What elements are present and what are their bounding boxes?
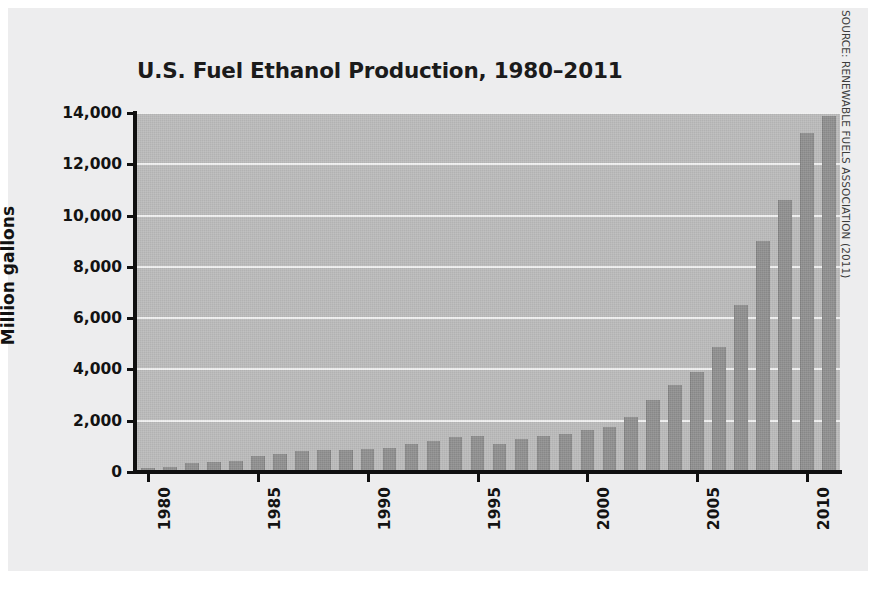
bar [800,133,814,472]
x-axis-label: 2010 [815,487,833,530]
x-axis-label: 1995 [486,487,504,530]
y-axis-label: 10,000 [62,207,122,225]
bar [339,450,353,472]
x-axis-label: 2000 [595,487,613,530]
bar [515,439,529,472]
y-axis-tick [127,112,134,115]
x-axis-label: 1990 [376,487,394,530]
y-axis-label: 12,000 [62,155,122,173]
y-axis-tick [127,471,134,474]
gridline [137,163,840,165]
x-axis-tick [147,474,150,482]
y-axis-label-wrap: 14,000 [0,104,122,122]
bar [624,417,638,472]
bar [449,437,463,472]
x-axis-tick [586,474,589,482]
gridline [137,215,840,217]
y-axis-label: 0 [111,463,122,481]
bar [295,451,309,472]
y-axis-tick [127,163,134,166]
bar [493,444,507,472]
bar [537,436,551,472]
y-axis-label-wrap: 4,000 [0,360,122,378]
bar [668,385,682,472]
x-axis-tick [806,474,809,482]
bar [383,448,397,472]
gridline [137,266,840,268]
bar [778,200,792,472]
bar [581,430,595,472]
y-axis-tick [127,266,134,269]
y-axis-label: 2,000 [73,412,122,430]
plot-area [137,113,840,472]
bar [405,444,419,472]
bar [317,450,331,472]
x-axis-tick [477,474,480,482]
y-axis-tick [127,420,134,423]
y-axis-tick [127,368,134,371]
bar [712,347,726,472]
y-axis-label-wrap: 0 [0,463,122,481]
x-axis-label: 1985 [266,487,284,530]
x-axis-tick [367,474,370,482]
y-axis-title: Million gallons [0,206,18,345]
y-axis-label: 4,000 [73,360,122,378]
y-axis-label-wrap: 8,000 [0,258,122,276]
x-axis-label: 1980 [156,487,174,530]
y-axis-label: 6,000 [73,309,122,327]
x-axis-tick [696,474,699,482]
y-axis-label-wrap: 12,000 [0,155,122,173]
bar [734,305,748,472]
chart-figure: U.S. Fuel Ethanol Production, 1980–2011 … [0,0,876,601]
y-axis-label: 8,000 [73,258,122,276]
bar [822,116,836,472]
bar [559,434,573,472]
x-axis-tick [257,474,260,482]
bar [471,436,485,472]
bar [646,400,660,472]
gridline [137,113,840,114]
y-axis-label: 14,000 [62,104,122,122]
y-axis-tick [127,215,134,218]
x-axis-line [133,470,842,474]
y-axis-label-wrap: 6,000 [0,309,122,327]
chart-title: U.S. Fuel Ethanol Production, 1980–2011 [137,58,622,83]
bar [603,427,617,472]
bar [756,241,770,472]
y-axis-label-wrap: 2,000 [0,412,122,430]
source-note: SOURCE: RENEWABLE FUELS ASSOCIATION (201… [840,10,852,279]
x-axis-label: 2005 [705,487,723,530]
y-axis-label-wrap: 10,000 [0,207,122,225]
y-axis-tick [127,317,134,320]
bar [361,449,375,472]
bar [690,372,704,472]
bar [427,441,441,472]
